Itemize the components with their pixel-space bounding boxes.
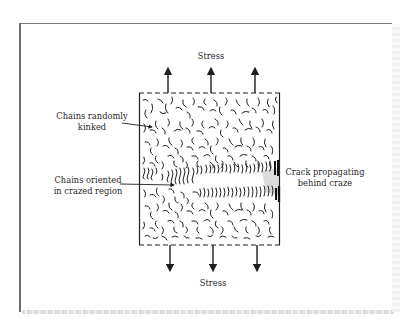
label-line: Chains randomly <box>50 111 134 122</box>
stress-arrows-top <box>168 71 255 93</box>
label-line: Crack propagating <box>283 167 367 178</box>
stress-label-bottom: Stress <box>193 278 233 289</box>
stress-arrows-bottom <box>170 245 257 268</box>
label-chains-oriented: Chains oriented in crazed region <box>50 175 126 196</box>
label-line: kinked <box>50 122 134 133</box>
leader-chains-oriented <box>120 184 174 185</box>
label-line: behind craze <box>283 178 367 189</box>
stress-label-top: Stress <box>191 51 231 62</box>
label-line: in crazed region <box>50 186 126 197</box>
label-chains-randomly-kinked: Chains randomly kinked <box>50 111 134 132</box>
random-chains-upper <box>143 97 277 169</box>
label-crack-propagating: Crack propagating behind craze <box>283 167 367 188</box>
label-line: Chains oriented <box>50 175 126 186</box>
